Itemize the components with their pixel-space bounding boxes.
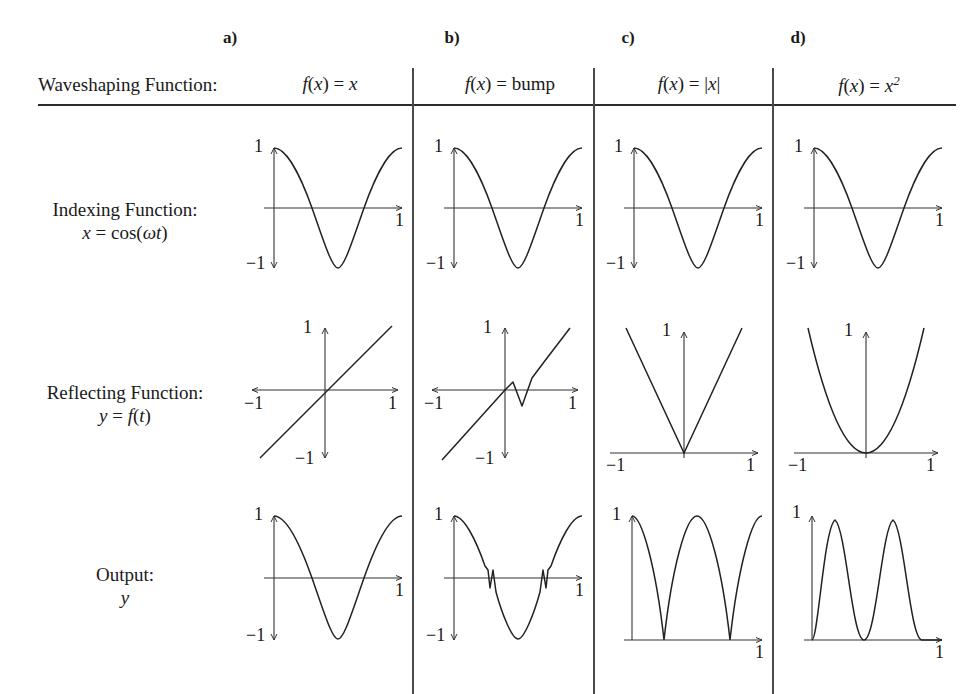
plot-output-b: 1 −1 1 — [438, 508, 588, 656]
y-tick-bottom: −1 — [246, 253, 265, 274]
column-letter-a: a) — [200, 28, 260, 48]
row-label-indexing-line1: Indexing Function: — [10, 198, 240, 221]
x-tick-right: 1 — [575, 580, 584, 601]
waveshaping-formula-c: f(x) = |x| — [604, 73, 774, 95]
column-letter-b: b) — [422, 28, 482, 48]
row-label-waveshaping: Waveshaping Function: — [38, 73, 217, 96]
x-tick-right: 1 — [755, 210, 764, 231]
plot-reflecting-b: 1 −1 −1 1 — [420, 318, 590, 473]
y-tick-top: 1 — [794, 136, 803, 157]
y-tick-top: 1 — [254, 136, 263, 157]
waveshaping-formula-b: f(x) = bump — [425, 73, 595, 95]
x-tick-right: 1 — [935, 210, 944, 231]
y-tick-top: 1 — [483, 317, 492, 338]
x-tick-right: 1 — [395, 210, 404, 231]
plot-output-c: 1 1 — [618, 508, 768, 656]
plot-indexing-a: 1 −1 1 — [258, 140, 408, 285]
waveshaping-formula-a: f(x) = x — [245, 73, 415, 95]
row-label-indexing-line2: x = cos(ωt) — [10, 221, 240, 244]
plot-reflecting-c: 1 −1 1 — [600, 318, 770, 473]
row-label-indexing: Indexing Function: x = cos(ωt) — [10, 198, 240, 244]
plot-indexing-b: 1 −1 1 — [438, 140, 588, 285]
waveshaping-figure: a) b) c) d) Waveshaping Function: f(x) =… — [0, 0, 975, 694]
y-tick-bottom: −1 — [786, 253, 805, 274]
plot-indexing-d: 1 −1 1 — [798, 140, 948, 285]
y-tick-bottom: −1 — [606, 253, 625, 274]
x-tick-right: 1 — [755, 642, 764, 663]
column-letter-c: c) — [598, 28, 658, 48]
row-label-reflecting-line2: y = f(t) — [10, 404, 240, 427]
x-tick-right: 1 — [575, 210, 584, 231]
x-tick-left: −1 — [606, 455, 625, 476]
x-tick-right: 1 — [926, 455, 935, 476]
x-tick-right: 1 — [395, 580, 404, 601]
y-tick-top: 1 — [254, 504, 263, 525]
x-tick-left: −1 — [424, 393, 443, 414]
x-tick-right: 1 — [935, 642, 944, 663]
y-tick-bottom: −1 — [426, 625, 445, 646]
column-divider-1 — [412, 68, 414, 694]
plot-indexing-c: 1 −1 1 — [618, 140, 768, 285]
y-tick-bottom: −1 — [475, 448, 494, 469]
row-label-output-line1: Output: — [10, 563, 240, 586]
y-tick-top: 1 — [792, 502, 801, 523]
row-label-reflecting-line1: Reflecting Function: — [10, 381, 240, 404]
x-tick-left: −1 — [244, 393, 263, 414]
y-tick-top: 1 — [303, 317, 312, 338]
row-label-output-line2: y — [10, 586, 240, 609]
x-tick-right: 1 — [568, 393, 577, 414]
plot-reflecting-a: 1 −1 −1 1 — [240, 318, 410, 473]
y-tick-top: 1 — [434, 136, 443, 157]
column-letter-d: d) — [768, 28, 828, 48]
y-tick-top: 1 — [662, 320, 671, 341]
row-label-output: Output: y — [10, 563, 240, 609]
y-tick-top: 1 — [844, 320, 853, 341]
y-tick-bottom: −1 — [246, 625, 265, 646]
plot-output-a: 1 −1 1 — [258, 508, 408, 656]
x-tick-left: −1 — [788, 455, 807, 476]
column-divider-3 — [772, 68, 774, 694]
y-tick-top: 1 — [614, 136, 623, 157]
column-divider-2 — [593, 68, 595, 694]
x-tick-right: 1 — [746, 455, 755, 476]
plot-output-d: 1 1 — [798, 508, 948, 656]
row-label-reflecting: Reflecting Function: y = f(t) — [10, 381, 240, 427]
header-rule — [38, 104, 956, 106]
y-tick-top: 1 — [612, 504, 621, 525]
y-tick-bottom: −1 — [426, 253, 445, 274]
plot-reflecting-d: 1 −1 1 — [780, 318, 950, 473]
x-tick-right: 1 — [388, 393, 397, 414]
waveshaping-formula-d: f(x) = x2 — [784, 73, 954, 97]
y-tick-top: 1 — [434, 504, 443, 525]
y-tick-bottom: −1 — [295, 448, 314, 469]
